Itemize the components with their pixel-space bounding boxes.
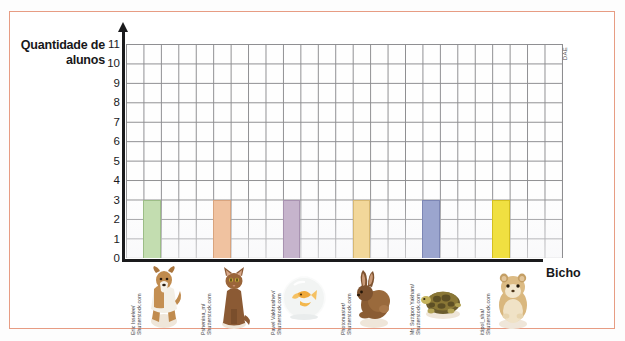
y-tick-9: 9: [98, 78, 120, 89]
rabbit-icon: [351, 265, 397, 331]
y-axis-line: [122, 30, 125, 261]
dog-icon: [141, 265, 187, 331]
y-tick-4: 4: [98, 175, 120, 186]
y-tick-11: 11: [98, 39, 120, 50]
y-tick-2: 2: [98, 214, 120, 225]
cat-icon: [211, 265, 257, 331]
bar-gato: [213, 200, 230, 258]
y-tick-0: 0: [98, 253, 120, 264]
category-coelho: Photomaster/ Shutterstock.com: [340, 261, 410, 337]
y-tick-1: 1: [98, 234, 120, 245]
y-tick-6: 6: [98, 136, 120, 147]
goldfish-bowl-icon: [281, 265, 327, 331]
turtle-icon: [420, 265, 466, 331]
y-tick-10: 10: [98, 58, 120, 69]
category-tartaruga: Mr. Suttipon Yakham/ Shutterstock.com: [409, 261, 479, 337]
bar-series: [126, 44, 562, 258]
category-peixe: Pavel Vakhrushev/ Shutterstock.com: [270, 261, 340, 337]
figure-page: Quantidade de alunos Bicho 0123456789101…: [0, 0, 625, 341]
category-labels: Eric Isselee/ Shutterstock.com Pshenina_…: [126, 261, 562, 337]
bar-tartaruga: [422, 200, 439, 258]
bar-coelho: [353, 200, 370, 258]
bar-peixe: [283, 200, 300, 258]
category-hamster: ittipol_sha/ Shutterstock.com: [479, 261, 549, 337]
bar-hamster: [492, 200, 509, 258]
y-tick-3: 3: [98, 195, 120, 206]
source-credit-mark: DAE: [562, 47, 568, 60]
y-axis-ticks: 01234567891011: [96, 0, 120, 341]
bar-cachorro: [143, 200, 160, 258]
category-gato: Pshenina_m/ Shutterstock.com: [200, 261, 270, 337]
y-tick-7: 7: [98, 117, 120, 128]
category-cachorro: Eric Isselee/ Shutterstock.com: [130, 261, 200, 337]
y-axis-title: Quantidade de alunos: [10, 38, 105, 68]
y-tick-8: 8: [98, 97, 120, 108]
hamster-icon: [490, 265, 536, 331]
y-tick-5: 5: [98, 156, 120, 167]
